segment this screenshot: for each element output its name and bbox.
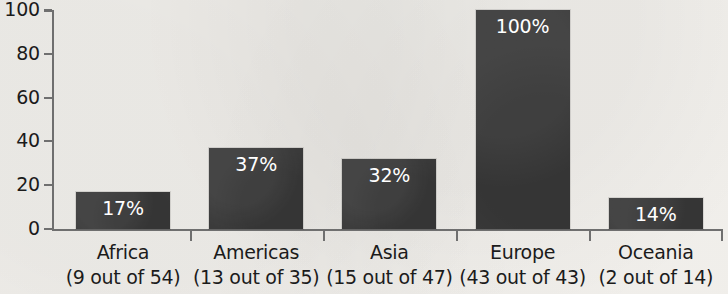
- bar-chart: 020406080100 17%37%32%100%14% Africa(9 o…: [0, 0, 728, 294]
- y-axis-tick: [44, 97, 52, 99]
- y-axis-tick: [44, 140, 52, 142]
- y-axis-tick: [44, 53, 52, 55]
- x-axis-line: [52, 229, 723, 231]
- y-axis-tick: [44, 228, 52, 230]
- bar[interactable]: 37%: [209, 148, 303, 229]
- y-axis-tick: [44, 9, 52, 11]
- y-axis-tick-label: 60: [0, 88, 40, 107]
- y-axis-tick-label: 0: [0, 219, 40, 238]
- bar[interactable]: 32%: [342, 159, 436, 229]
- category-name: Oceania: [566, 240, 728, 265]
- y-axis-tick-label: 40: [0, 131, 40, 150]
- bar-value-label: 100%: [476, 15, 570, 37]
- y-axis-tick-label: 20: [0, 175, 40, 194]
- category-label: Oceania(2 out of 14): [566, 240, 728, 290]
- bar[interactable]: 17%: [76, 192, 170, 229]
- category-count: (2 out of 14): [566, 265, 728, 290]
- bar-value-label: 17%: [76, 197, 170, 219]
- y-axis-tick-label: 80: [0, 44, 40, 63]
- bar-value-label: 14%: [609, 203, 703, 225]
- y-axis-tick-label: 100: [0, 0, 40, 19]
- bar-value-label: 37%: [209, 153, 303, 175]
- y-axis-line: [52, 10, 54, 230]
- bar[interactable]: 100%: [476, 10, 570, 229]
- bar[interactable]: 14%: [609, 198, 703, 229]
- y-axis-tick: [44, 184, 52, 186]
- bar-value-label: 32%: [342, 164, 436, 186]
